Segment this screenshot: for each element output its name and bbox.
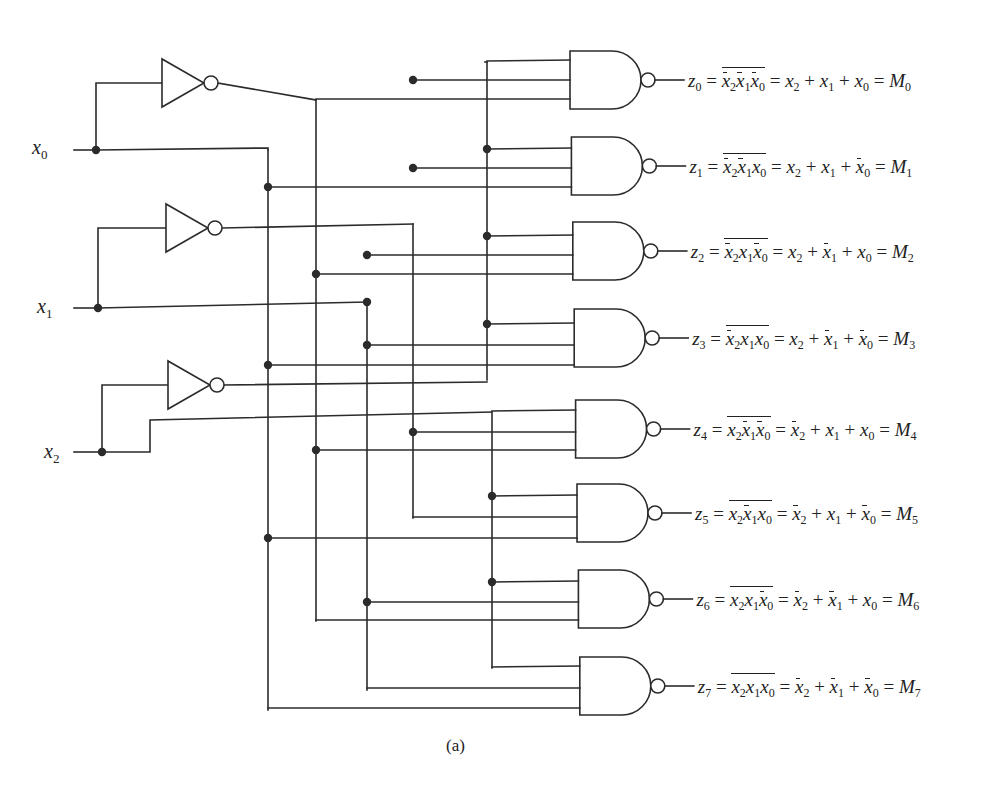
junction-dot [312, 270, 320, 278]
inverter-icon [166, 204, 208, 252]
equation-z2: z2 = x2x1x0 = x2 + x1 + x0 = M2 [691, 239, 914, 264]
nand-product-overbar: x2x1x0 [724, 239, 767, 264]
variable: x0 [753, 241, 767, 262]
variable: x0 [751, 70, 765, 91]
variable: x1 [743, 503, 757, 524]
equation-z7: z7 = x2x1x0 = x2 + x1 + x0 = M7 [698, 674, 921, 699]
junction-dot [264, 534, 272, 542]
input-label-x2: x2 [44, 440, 59, 467]
junction-dot [488, 578, 496, 586]
variable: x2 [722, 70, 736, 91]
inverter-out-x1 [222, 224, 413, 228]
junction-dot [264, 361, 272, 369]
variable: x1 [828, 589, 842, 610]
variable: x2 [789, 328, 803, 349]
nand-gate-6 [578, 570, 649, 628]
junction-dot [98, 448, 106, 456]
variable: x0 [758, 503, 772, 524]
variable: z1 [689, 156, 702, 177]
nand-gate-7 [580, 657, 651, 715]
variable: z5 [695, 503, 708, 524]
nand-bubble-icon [644, 244, 658, 258]
variable: x1 [824, 328, 838, 349]
equation-z6: z6 = x2x1x0 = x2 + x1 + x0 = M6 [696, 587, 919, 612]
nand-bubble-icon [647, 422, 661, 436]
x0-true-route [96, 148, 268, 150]
nand-gate-1 [571, 137, 642, 195]
gate-input-wire [492, 581, 578, 582]
nand-gate-5 [577, 484, 648, 542]
variable: M5 [896, 503, 918, 524]
decoder-circuit-diagram [0, 0, 1008, 790]
gate-input-wire [492, 410, 576, 411]
variable: x0 [859, 328, 873, 349]
input-label-x1: x1 [37, 295, 52, 322]
variable: x1 [744, 589, 758, 610]
variable: x1 [825, 419, 839, 440]
junction-dot [483, 145, 491, 153]
nand-product-overbar: x2x1x0 [731, 674, 774, 699]
nand-bubble-icon [645, 331, 659, 345]
x1-true-route [98, 302, 367, 308]
variable: x2 [723, 156, 737, 177]
junction-dot [363, 598, 371, 606]
gate-input-wire [487, 148, 571, 149]
junction-dot [409, 428, 417, 436]
junction-dot [488, 492, 496, 500]
variable: x1 [742, 419, 756, 440]
nand-product-overbar: x2x1x0 [723, 154, 766, 179]
junction-dot [363, 298, 371, 306]
variable: x2 [724, 241, 738, 262]
nand-bubble-icon [641, 73, 655, 87]
variable: x0 [856, 156, 870, 177]
nand-bubble-icon [651, 679, 665, 693]
nand-bubble-icon [642, 159, 656, 173]
variable: x2 [729, 503, 743, 524]
variable: z7 [698, 676, 711, 697]
junction-dot [264, 183, 272, 191]
nand-gate-2 [573, 222, 644, 280]
nand-gate-0 [570, 51, 641, 109]
variable: z2 [691, 241, 704, 262]
variable: x1 [740, 328, 754, 349]
junction-dot [363, 251, 371, 259]
inverter-feed-x1 [98, 228, 166, 308]
gate-input-wire [487, 323, 574, 324]
variable: x2 [730, 589, 744, 610]
nand-product-overbar: x2x1x0 [730, 587, 773, 612]
variable: z3 [692, 328, 705, 349]
variable: z0 [688, 70, 701, 91]
variable: x1 [737, 156, 751, 177]
gate-input-wire [487, 60, 570, 61]
gate-input-wire [492, 495, 577, 496]
input-label-x0: x0 [32, 136, 47, 163]
variable: M7 [899, 676, 921, 697]
variable: x2 [727, 419, 741, 440]
variable: x2 [731, 676, 745, 697]
gate-input-wire [487, 235, 573, 236]
variable: x2 [795, 676, 809, 697]
inverter-gates [162, 59, 224, 409]
gate-input-wire [492, 666, 580, 667]
junction-dot [363, 341, 371, 349]
inverter-feed-x2 [102, 385, 168, 452]
junction-dot [312, 446, 320, 454]
variable: x2 [792, 503, 806, 524]
variable: x2 [788, 241, 802, 262]
variable: x0 [756, 419, 770, 440]
equation-z1: z1 = x2x1x0 = x2 + x1 + x0 = M1 [689, 154, 912, 179]
variable: x0 [759, 589, 773, 610]
variable: M1 [891, 156, 913, 177]
inverter-icon [168, 361, 210, 409]
nand-bubble-icon [648, 506, 662, 520]
nand-gate-4 [576, 400, 647, 458]
variable: x0 [864, 676, 878, 697]
variable: x1 [827, 503, 841, 524]
variable: x0 [755, 328, 769, 349]
nand-product-overbar: x2x1x0 [722, 68, 765, 93]
variable: M6 [898, 589, 920, 610]
inverter-out-x2 [224, 382, 487, 385]
variable: M2 [892, 241, 914, 262]
variable: x2 [787, 156, 801, 177]
variable: z6 [696, 589, 709, 610]
